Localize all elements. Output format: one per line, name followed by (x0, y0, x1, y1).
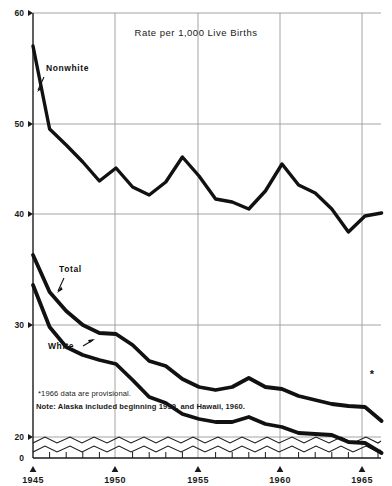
y-tick-label-30: 30 (15, 320, 25, 330)
x-tick-label-1965: 1965 (351, 475, 373, 485)
series-label-total-text: Total (59, 264, 82, 274)
y-tick-label-60: 60 (15, 8, 25, 18)
x-tick-label-1950: 1950 (104, 475, 126, 485)
x-tick-label-1955: 1955 (187, 475, 209, 485)
y-tick-label-40: 40 (15, 209, 25, 219)
footnote-states: Note: Alaska included beginning 1959, an… (36, 402, 245, 411)
series-label-nonwhite-text: Nonwhite (46, 63, 89, 73)
x-tick-label-1960: 1960 (269, 475, 291, 485)
y-tick-label-zero: 0 (19, 453, 24, 463)
series-label-white-text: White (48, 341, 74, 351)
chart-title: Rate per 1,000 Live Births (135, 27, 258, 38)
footnote-provisional: *1966 data are provisional. (38, 389, 131, 398)
chart-container: 60 50 40 30 20 0 Rate per 1,000 Live Bir… (0, 0, 392, 486)
x-tick-label-1945: 1945 (22, 475, 44, 485)
y-tick-label-50: 50 (15, 119, 25, 129)
provisional-asterisk: * (370, 368, 375, 380)
y-tick-label-20: 20 (15, 432, 25, 442)
infant-mortality-line-chart: 60 50 40 30 20 0 Rate per 1,000 Live Bir… (0, 0, 392, 486)
